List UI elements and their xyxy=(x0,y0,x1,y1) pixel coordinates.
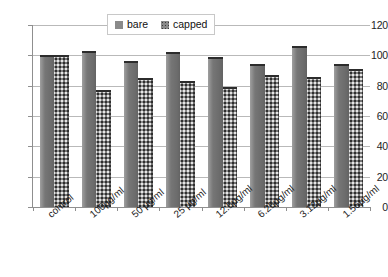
bar-group xyxy=(159,25,201,207)
bar-capped xyxy=(96,90,111,207)
legend-label-bare: bare xyxy=(127,19,148,30)
legend-label-capped: capped xyxy=(173,19,207,30)
chart-legend: bare capped xyxy=(107,14,215,35)
bar-group xyxy=(202,25,244,207)
x-tick-mark xyxy=(328,207,329,211)
bar-bare xyxy=(292,46,307,207)
x-tick-mark xyxy=(75,207,76,211)
bar-bare xyxy=(166,52,181,207)
bar-bare xyxy=(334,64,349,207)
bar-capped xyxy=(138,78,153,207)
x-tick-mark xyxy=(33,207,34,211)
legend-entry-bare: bare xyxy=(115,19,148,30)
bar-bare xyxy=(250,64,265,207)
bar-chart: 120100806040200 control100µg/ml50 µg/ml2… xyxy=(0,0,388,277)
bar-capped xyxy=(307,77,322,207)
bar-bare xyxy=(124,61,139,207)
x-tick-mark xyxy=(370,207,371,211)
bar-group xyxy=(328,25,370,207)
bar-group xyxy=(117,25,159,207)
bar-group xyxy=(286,25,328,207)
bar-group xyxy=(33,25,75,207)
x-tick-mark xyxy=(202,207,203,211)
bar-capped xyxy=(54,55,69,207)
bar-capped xyxy=(180,81,195,207)
bar-group xyxy=(75,25,117,207)
bare-swatch-icon xyxy=(115,21,123,29)
bar-bare xyxy=(82,51,97,207)
bar-bare xyxy=(40,55,55,207)
plot-area xyxy=(33,25,370,207)
bar-capped xyxy=(223,87,238,207)
bar-capped xyxy=(265,75,280,207)
x-tick-mark xyxy=(159,207,160,211)
legend-entry-capped: capped xyxy=(161,19,207,30)
x-tick-mark xyxy=(117,207,118,211)
bar-bare xyxy=(208,57,223,207)
bar-group xyxy=(244,25,286,207)
capped-swatch-icon xyxy=(161,21,169,29)
x-tick-mark xyxy=(286,207,287,211)
x-tick-mark xyxy=(244,207,245,211)
bar-capped xyxy=(349,69,364,207)
